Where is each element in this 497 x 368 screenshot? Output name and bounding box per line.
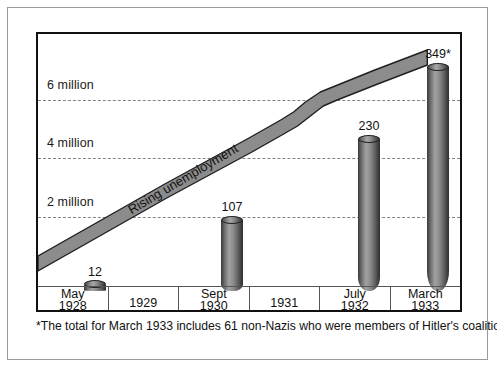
rising-unemployment-band: [38, 34, 460, 291]
axis-cell-sept-1930: Sept 1930: [179, 287, 250, 310]
bar-sept-1930: 107: [221, 217, 243, 291]
bar-cap-march-1933: [427, 63, 449, 71]
gridline-4-million: [38, 158, 460, 159]
y-tick-label-6-million: 6 million: [47, 78, 94, 92]
bar-value-sept-1930: 107: [222, 200, 243, 214]
bar-value-may-1928: 12: [88, 265, 102, 279]
axis-cell-may-1928: May 1928: [38, 287, 109, 310]
chart-frame: 6 million 4 million 2 million Rising une…: [36, 32, 462, 312]
bar-march-1933: 349*: [427, 64, 449, 291]
axis-cell-july-1932: July 1932: [320, 287, 391, 310]
figure-container: 6 million 4 million 2 million Rising une…: [7, 7, 488, 360]
x-axis-table: May 1928 1929 Sept 1930 1931 July 1932 M…: [38, 286, 460, 310]
axis-year-1932: 1932: [341, 300, 369, 312]
bar-body-march-1933: [427, 67, 449, 291]
bar-body-july-1932: [358, 139, 380, 291]
bar-value-july-1932: 230: [359, 119, 380, 133]
gridline-6-million: [38, 100, 460, 101]
axis-cell-1931: 1931: [250, 287, 321, 310]
bar-july-1932: 230: [358, 136, 380, 291]
axis-cell-march-1933: March 1933: [391, 287, 461, 310]
chart-footnote: *The total for March 1933 includes 61 no…: [36, 319, 466, 333]
axis-year-1931: 1931: [270, 297, 298, 309]
axis-year-1929: 1929: [129, 297, 157, 309]
bar-body-sept-1930: [221, 220, 243, 291]
y-tick-label-2-million: 2 million: [47, 195, 94, 209]
bar-value-march-1933: 349*: [425, 47, 451, 61]
bar-cap-july-1932: [358, 135, 380, 143]
axis-cell-1929: 1929: [109, 287, 180, 310]
axis-year-1928: 1928: [59, 300, 87, 312]
y-tick-label-4-million: 4 million: [47, 136, 94, 150]
axis-year-1933: 1933: [411, 300, 439, 312]
axis-year-1930: 1930: [200, 300, 228, 312]
plot-area: 6 million 4 million 2 million Rising une…: [38, 34, 460, 291]
bar-cap-sept-1930: [221, 216, 243, 224]
gridline-2-million: [38, 217, 460, 218]
